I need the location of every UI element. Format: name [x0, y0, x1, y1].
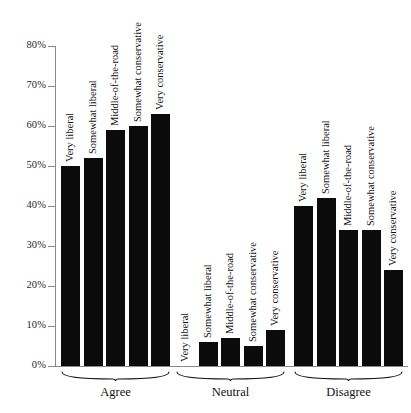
bar-label: Somewhat liberal: [320, 120, 331, 194]
plot-area: Very liberalSomewhat liberalMiddle-of-th…: [56, 46, 408, 366]
bar-slot: Somewhat conservative: [244, 46, 263, 366]
bar-label: Somewhat conservative: [132, 22, 143, 122]
bar[interactable]: [129, 126, 148, 366]
bar-label: Middle-of-the-road: [109, 45, 120, 126]
y-tick-label: 30%: [4, 239, 46, 250]
bar-slot: Very conservative: [266, 46, 285, 366]
y-tick-label: 80%: [4, 39, 46, 50]
y-tick-mark: [48, 286, 56, 287]
bar-label: Middle-of-the-road: [342, 145, 353, 226]
y-tick-mark: [48, 326, 56, 327]
x-axis-line: [55, 366, 408, 367]
bar-label: Very liberal: [64, 113, 75, 162]
bar-group: Very liberalSomewhat liberalMiddle-of-th…: [176, 46, 285, 366]
bar-label: Very conservative: [269, 250, 280, 326]
bar[interactable]: [266, 330, 285, 366]
bar-label: Somewhat conservative: [365, 126, 376, 226]
bar-group: Very liberalSomewhat liberalMiddle-of-th…: [61, 46, 170, 366]
y-tick-mark: [48, 166, 56, 167]
bar-slot: Middle-of-the-road: [339, 46, 358, 366]
bar-label: Very liberal: [297, 153, 308, 202]
bar-slot: Very liberal: [61, 46, 80, 366]
bar-chart: 0%10%20%30%40%50%60%70%80% Very liberalS…: [0, 0, 411, 413]
bar-slot: Middle-of-the-road: [106, 46, 125, 366]
y-tick-mark: [48, 246, 56, 247]
bar-slot: Very conservative: [384, 46, 403, 366]
bar-slot: Somewhat liberal: [199, 46, 218, 366]
y-tick-mark: [48, 86, 56, 87]
bar[interactable]: [339, 230, 358, 366]
y-tick-label: 70%: [4, 79, 46, 90]
bar-slot: Somewhat liberal: [84, 46, 103, 366]
bar-label: Very conservative: [387, 190, 398, 266]
bar[interactable]: [244, 346, 263, 366]
bar[interactable]: [106, 130, 125, 366]
bar-label: Middle-of-the-road: [224, 253, 235, 334]
bar-slot: Very liberal: [176, 46, 195, 366]
bar-slot: Somewhat conservative: [129, 46, 148, 366]
bar[interactable]: [221, 338, 240, 366]
bar[interactable]: [384, 270, 403, 366]
y-tick-label: 20%: [4, 279, 46, 290]
bar-label: Somewhat liberal: [87, 80, 98, 154]
bar[interactable]: [151, 114, 170, 366]
group-bracket: [294, 371, 403, 382]
group-bracket: [176, 371, 285, 382]
y-tick-label: 10%: [4, 319, 46, 330]
y-tick-mark: [48, 126, 56, 127]
bar-slot: Somewhat liberal: [317, 46, 336, 366]
bar[interactable]: [61, 166, 80, 366]
y-tick-mark: [48, 46, 56, 47]
y-tick-label: 60%: [4, 119, 46, 130]
bar-slot: Middle-of-the-road: [221, 46, 240, 366]
bar-slot: Somewhat conservative: [362, 46, 381, 366]
bar[interactable]: [317, 198, 336, 366]
bar-label: Very conservative: [154, 34, 165, 110]
bar-group: Very liberalSomewhat liberalMiddle-of-th…: [294, 46, 403, 366]
y-tick-label: 50%: [4, 159, 46, 170]
bar-label: Somewhat conservative: [247, 242, 258, 342]
bar[interactable]: [199, 342, 218, 366]
bar[interactable]: [84, 158, 103, 366]
group-name: Neutral: [176, 385, 285, 400]
bar[interactable]: [294, 206, 313, 366]
group-bracket: [61, 371, 170, 382]
bar-slot: Very conservative: [151, 46, 170, 366]
bar-slot: Very liberal: [294, 46, 313, 366]
group-name: Disagree: [294, 385, 403, 400]
y-tick-label: 40%: [4, 199, 46, 210]
y-tick-mark: [48, 206, 56, 207]
group-name: Agree: [61, 385, 170, 400]
y-tick-label: 0%: [4, 359, 46, 370]
bar[interactable]: [362, 230, 381, 366]
bar-label: Somewhat liberal: [202, 264, 213, 338]
bar-label: Very liberal: [179, 313, 190, 362]
